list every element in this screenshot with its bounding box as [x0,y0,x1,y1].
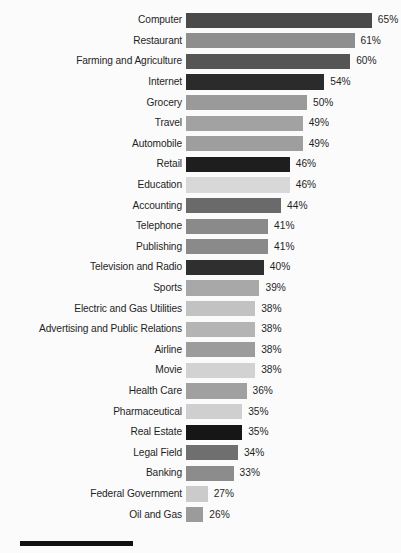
category-label: Accounting [0,201,182,211]
bar-fill [186,301,255,316]
bar-fill [186,280,259,295]
bar-fill [186,404,242,419]
value-label: 65% [378,15,398,25]
bar-fill [186,383,247,398]
value-label: 49% [309,139,329,149]
bar-fill [186,322,255,337]
bar [186,157,290,172]
bar-row: Real Estate35% [0,422,401,443]
bar-fill [186,177,290,192]
bar [186,136,303,151]
category-label: Restaurant [0,36,182,46]
bar-row: Sports39% [0,278,401,299]
bar-fill [186,219,268,234]
category-label: Movie [0,365,182,375]
category-label: Advertising and Public Relations [0,324,182,334]
bar [186,219,268,234]
category-label: Education [0,180,182,190]
value-label: 46% [296,159,316,169]
category-label: Automobile [0,139,182,149]
bar-fill [186,157,290,172]
bar-row: Restaurant61% [0,31,401,52]
bar-row: Education46% [0,175,401,196]
bar [186,383,247,398]
bar-fill [186,33,355,48]
category-label: Television and Radio [0,262,182,272]
bar-row: Publishing41% [0,237,401,258]
bar-row: Oil and Gas26% [0,504,401,525]
bar [186,239,268,254]
bar-fill [186,507,203,522]
bar-row: Grocery50% [0,92,401,113]
category-label: Health Care [0,386,182,396]
value-label: 34% [244,448,264,458]
bar-fill [186,95,307,110]
category-label: Telephone [0,221,182,231]
category-label: Real Estate [0,427,182,437]
bar [186,322,255,337]
category-label: Retail [0,159,182,169]
bar-row: Legal Field34% [0,443,401,464]
footer-rule [20,541,133,546]
value-label: 49% [309,118,329,128]
bar-fill [186,363,255,378]
bar-row: Pharmaceutical35% [0,401,401,422]
bar [186,507,203,522]
bar-row: Travel49% [0,113,401,134]
bar-fill [186,342,255,357]
category-label: Banking [0,468,182,478]
value-label: 50% [313,98,333,108]
bar [186,301,255,316]
bar-row: Banking33% [0,463,401,484]
value-label: 38% [261,304,281,314]
bar-row: Accounting44% [0,195,401,216]
category-label: Legal Field [0,448,182,458]
bar-row: Telephone41% [0,216,401,237]
bar-fill [186,198,281,213]
bar-chart: Computer65%Restaurant61%Farming and Agri… [0,0,401,553]
bar-row: Internet54% [0,72,401,93]
value-label: 46% [296,180,316,190]
bar [186,33,355,48]
category-label: Grocery [0,98,182,108]
bar [186,425,242,440]
category-label: Sports [0,283,182,293]
bar-fill [186,260,264,275]
bar [186,342,255,357]
value-label: 38% [261,324,281,334]
bar [186,74,324,89]
bar-row: Television and Radio40% [0,257,401,278]
value-label: 33% [240,468,260,478]
value-label: 54% [330,77,350,87]
bar-row: Advertising and Public Relations38% [0,319,401,340]
bar-fill [186,116,303,131]
category-label: Airline [0,345,182,355]
value-label: 39% [265,283,285,293]
bar [186,95,307,110]
category-label: Computer [0,15,182,25]
bar [186,260,264,275]
bar-row: Movie38% [0,360,401,381]
bar [186,363,255,378]
bar-row: Health Care36% [0,381,401,402]
bar [186,486,208,501]
value-label: 35% [248,407,268,417]
bar-fill [186,13,372,28]
value-label: 26% [209,510,229,520]
bar [186,466,234,481]
value-label: 61% [361,36,381,46]
category-label: Travel [0,118,182,128]
bar [186,445,238,460]
bar-row: Computer65% [0,10,401,31]
bar [186,198,281,213]
bar [186,280,259,295]
bar-fill [186,486,208,501]
bar-fill [186,74,324,89]
value-label: 41% [274,242,294,252]
value-label: 40% [270,262,290,272]
category-label: Farming and Agriculture [0,56,182,66]
bar-row: Retail46% [0,154,401,175]
category-label: Federal Government [0,489,182,499]
value-label: 60% [356,56,376,66]
value-label: 38% [261,365,281,375]
